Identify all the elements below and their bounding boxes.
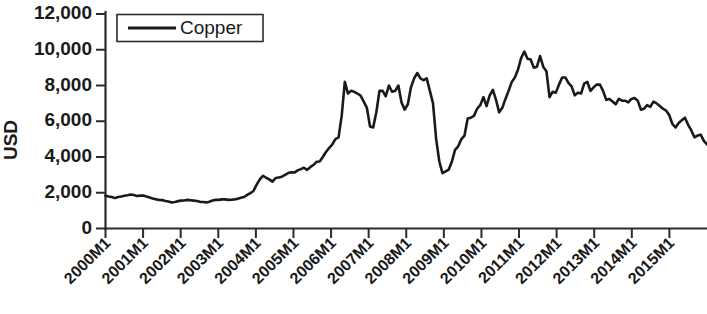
copper-price-chart: 02,0004,0006,0008,00010,00012,000 USD 20… bbox=[0, 0, 707, 314]
y-axis-tick-label: 2,000 bbox=[44, 181, 92, 202]
y-axis-tick-label: 4,000 bbox=[44, 145, 92, 166]
series-line-copper bbox=[106, 52, 707, 203]
x-axis-group: 2000M12001M12002M12003M12004M12005M12006… bbox=[61, 229, 707, 288]
y-axis-tick-label: 0 bbox=[81, 217, 92, 238]
y-axis-tick-label: 12,000 bbox=[34, 2, 92, 23]
x-axis-tick-labels: 2000M12001M12002M12003M12004M12005M12006… bbox=[61, 234, 678, 287]
y-axis-title: USD bbox=[0, 120, 21, 160]
y-axis-tick-labels: 02,0004,0006,0008,00010,00012,000 bbox=[34, 2, 92, 238]
y-axis-tick-marks bbox=[96, 14, 106, 229]
y-axis-tick-label: 10,000 bbox=[34, 38, 92, 59]
y-axis-tick-label: 6,000 bbox=[44, 109, 92, 130]
y-axis-group: 02,0004,0006,0008,00010,00012,000 USD bbox=[0, 2, 106, 238]
legend-label-copper: Copper bbox=[180, 17, 243, 38]
chart-legend: Copper bbox=[117, 15, 263, 42]
data-series-group bbox=[106, 52, 707, 203]
chart-canvas: 02,0004,0006,0008,00010,00012,000 USD 20… bbox=[0, 0, 707, 314]
y-axis-tick-label: 8,000 bbox=[44, 74, 92, 95]
x-axis-tick-marks bbox=[106, 229, 670, 239]
